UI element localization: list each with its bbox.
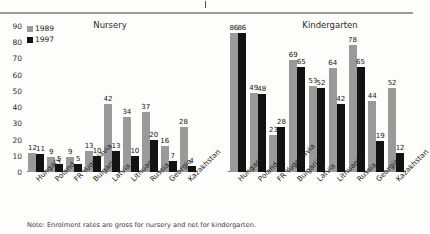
kindergarten-chart-title: Kindergarten — [275, 20, 385, 30]
bar-group: 4948 — [250, 26, 266, 172]
bar-value-label: 28 — [179, 118, 188, 126]
bar-group: 4419 — [368, 26, 384, 172]
y-axis-tick-70: 70 — [0, 54, 22, 63]
y-axis-tick-60: 60 — [0, 70, 22, 79]
bar-group: 2328 — [269, 26, 285, 172]
y-axis-tick-30: 30 — [0, 119, 22, 128]
y-axis-tick-80: 80 — [0, 38, 22, 47]
header-divider-rule — [0, 12, 413, 14]
bar-value-label: 52 — [317, 79, 326, 87]
y-axis-labels: 0102030405060708090 — [0, 0, 22, 234]
bar-group: 167 — [161, 26, 177, 172]
bar-group: 95 — [47, 26, 63, 172]
figure-note: Note: Enrolment rates are gross for nurs… — [27, 221, 256, 229]
bar-value-label: 42 — [104, 95, 113, 103]
bar-value-label: 65 — [356, 58, 365, 66]
bar-group: 8686 — [230, 26, 246, 172]
bar-1989-lithuania — [329, 68, 337, 172]
bar-1989-hungary — [230, 33, 238, 173]
bar-group: 3410 — [123, 26, 139, 172]
bar-value-label: 19 — [376, 132, 385, 140]
y-axis-tick-0: 0 — [0, 168, 22, 177]
bar-value-label: 9 — [68, 148, 72, 156]
bar-value-label: 42 — [336, 95, 345, 103]
bar-value-label: 65 — [297, 58, 306, 66]
bar-value-label: 34 — [122, 108, 131, 116]
bar-value-label: 37 — [141, 103, 150, 111]
bar-value-label: 48 — [257, 85, 266, 93]
bar-value-label: 28 — [277, 118, 286, 126]
y-axis-tick-40: 40 — [0, 103, 22, 112]
bar-value-label: 64 — [328, 59, 337, 67]
bar-value-label: 12 — [396, 144, 405, 152]
bar-value-label: 11 — [36, 145, 45, 153]
bar-group: 7865 — [349, 26, 365, 172]
y-axis-tick-20: 20 — [0, 135, 22, 144]
bar-value-label: 20 — [149, 131, 158, 139]
nursery-chart-plot: 121195951310421334103720167284 — [27, 26, 197, 172]
bar-group: 95 — [66, 26, 82, 172]
bar-1997-hungary — [238, 33, 246, 173]
bar-value-label: 78 — [348, 36, 357, 44]
y-axis-tick-90: 90 — [0, 22, 22, 31]
y-axis-tick-50: 50 — [0, 86, 22, 95]
bar-value-label: 86 — [237, 24, 246, 32]
bar-group: 6442 — [329, 26, 345, 172]
nursery-chart-title: Nursery — [55, 20, 165, 30]
bar-value-label: 10 — [130, 147, 139, 155]
page-top-tick-mark — [205, 1, 206, 8]
bar-value-label: 44 — [368, 92, 377, 100]
bar-value-label: 7 — [170, 152, 174, 160]
bar-group: 5212 — [388, 26, 404, 172]
bar-value-label: 16 — [160, 137, 169, 145]
y-axis-tick-10: 10 — [0, 151, 22, 160]
bar-value-label: 5 — [76, 155, 80, 163]
bar-group: 1211 — [28, 26, 44, 172]
bar-group: 3720 — [142, 26, 158, 172]
bar-value-label: 52 — [388, 79, 397, 87]
bar-1989-hungary — [28, 153, 36, 172]
kindergarten-chart-plot: 868649482328696553526442786544195212 — [228, 26, 406, 172]
bar-group: 284 — [180, 26, 196, 172]
bar-1997-lithuania — [337, 104, 345, 172]
bar-value-label: 9 — [49, 148, 53, 156]
